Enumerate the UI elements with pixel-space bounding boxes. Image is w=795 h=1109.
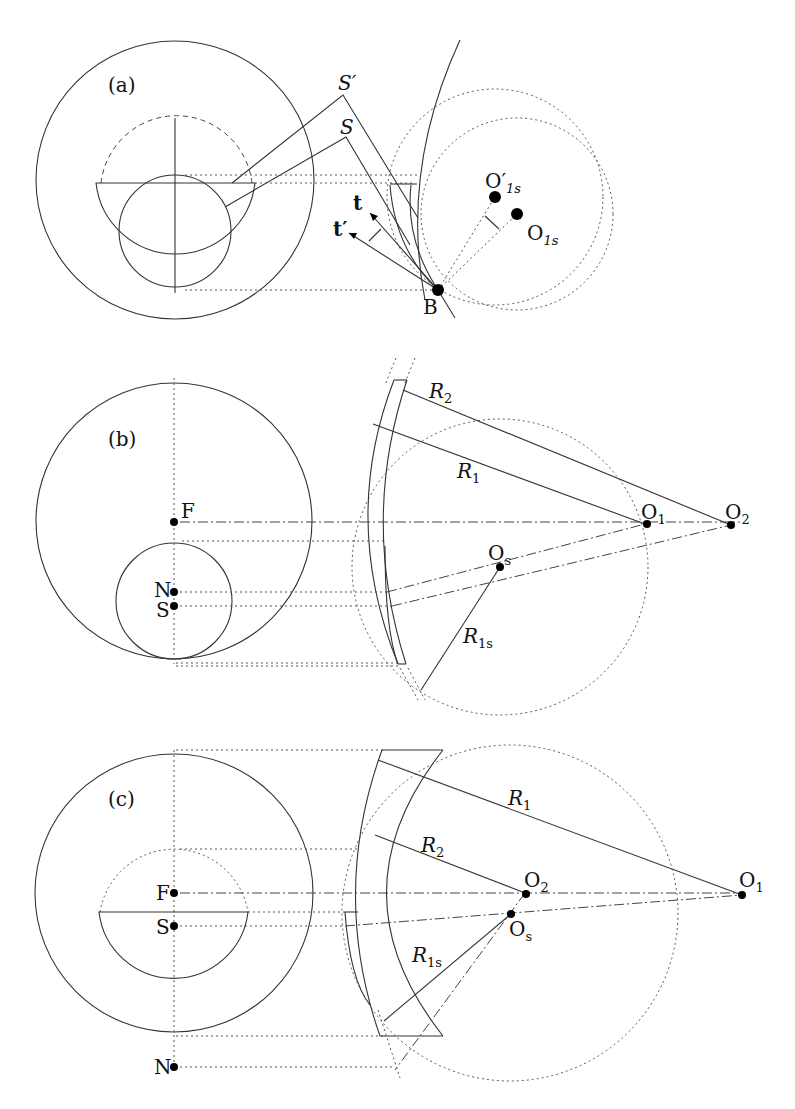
panel-a: (a) S′ S t t′ B O′1s O1s <box>36 40 613 319</box>
point-o1s <box>511 208 523 220</box>
angle-arc <box>369 229 381 241</box>
label-t: t <box>353 191 363 215</box>
t-prime-vector <box>349 233 438 290</box>
label-r1: R1 <box>507 786 531 813</box>
radius-r1 <box>373 424 645 524</box>
panel-label-a: (a) <box>108 73 136 97</box>
axis-line <box>387 524 645 592</box>
label-o2: O2 <box>725 500 750 527</box>
point-f <box>170 518 178 526</box>
label-o2: O2 <box>524 868 549 895</box>
label-s: S <box>156 915 170 939</box>
point-o1 <box>738 891 746 899</box>
radius-r1s <box>421 567 500 690</box>
label-f: F <box>156 881 170 905</box>
t-vector <box>370 213 438 290</box>
label-t-prime: t′ <box>333 217 348 241</box>
axis-line <box>395 893 525 1070</box>
angle-tick <box>485 216 499 229</box>
panel-b: (b) F N S O1 O2 Os R2 R1 R1s <box>36 358 750 715</box>
label-o1s-prime: O′1s <box>485 169 521 196</box>
radius-r2 <box>375 835 525 893</box>
label-os: Os <box>488 541 511 568</box>
axis-line <box>345 895 742 926</box>
arrowhead <box>349 233 357 239</box>
extension-line <box>385 358 396 385</box>
label-f: F <box>181 499 195 523</box>
s-path <box>225 137 410 245</box>
label-o1: O1 <box>641 500 666 527</box>
lens-outer-surface <box>418 40 460 300</box>
panel-label-b: (b) <box>108 427 136 451</box>
label-s: S <box>156 598 170 622</box>
label-b: B <box>423 295 438 319</box>
radius-line <box>438 197 495 290</box>
inner-circle <box>116 543 232 659</box>
radius-r2 <box>403 390 731 525</box>
arrowhead <box>370 213 378 221</box>
extension-line <box>408 668 425 700</box>
label-n: N <box>154 1055 172 1079</box>
radius-r1s <box>384 914 511 1021</box>
point-s <box>170 922 178 930</box>
axis-line <box>392 525 731 606</box>
label-o1: O1 <box>739 868 764 895</box>
point-s <box>170 602 178 610</box>
label-r2: R2 <box>428 379 452 406</box>
label-r1s: R1s <box>411 943 442 970</box>
panel-label-c: (c) <box>108 787 135 811</box>
optics-diagram: (a) S′ S t t′ B O′1s O1s <box>0 0 795 1109</box>
label-r1s: R1s <box>462 624 493 651</box>
s-prime-path <box>232 95 418 218</box>
label-o1s: O1s <box>527 221 559 248</box>
extension-line <box>378 1010 400 1078</box>
extension-line <box>404 358 415 385</box>
point-f <box>170 889 178 897</box>
radius-r1 <box>378 760 742 895</box>
panel-c: (c) F S N O2 Os O1 R1 R2 R1s <box>35 745 764 1081</box>
label-os: Os <box>509 917 532 944</box>
label-s: S <box>340 115 354 139</box>
label-s-prime: S′ <box>338 71 357 95</box>
dashed-upper-arc <box>101 116 252 183</box>
label-r1: R1 <box>456 459 480 486</box>
label-r2: R2 <box>420 833 444 860</box>
